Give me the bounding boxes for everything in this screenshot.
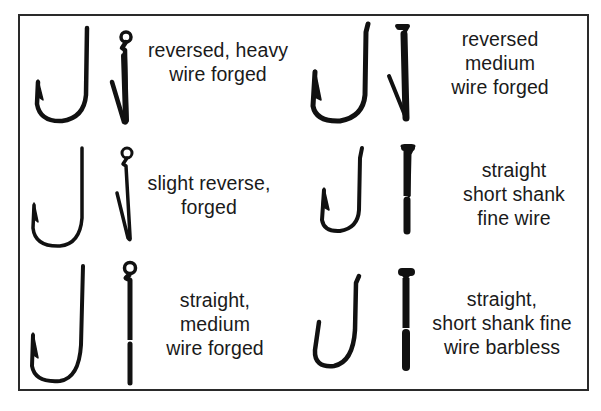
label-line: reversed <box>440 27 560 51</box>
hook-front-view-tapered-end-icon <box>389 24 408 118</box>
hook-side-view-icon <box>313 24 368 121</box>
label-line: wire forged <box>440 75 560 99</box>
hook-label-straight-medium-wire-forged: straight, medium wire forged <box>150 288 280 360</box>
label-line: straight, <box>150 288 280 312</box>
hook-front-view-ringed-eye-icon <box>125 263 136 384</box>
hook-front-view-tapered-end-icon <box>401 144 415 231</box>
hook-side-view-icon <box>33 148 82 246</box>
hook-label-straight-short-shank-fine-wire-barbless: straight, short shank fine wire barbless <box>418 287 586 359</box>
label-line: wire forged <box>150 336 280 360</box>
label-line: straight, <box>418 287 586 311</box>
label-line: fine wire <box>444 206 584 230</box>
label-line: short shank fine <box>418 311 586 335</box>
hook-side-view-icon <box>37 28 87 121</box>
hook-front-view-ringed-eye-icon <box>117 148 132 240</box>
label-line: straight <box>444 158 584 182</box>
hook-side-view-icon <box>322 148 362 231</box>
label-line: slight reverse, <box>138 171 280 195</box>
hook-front-view-ringed-eye-icon <box>112 32 131 123</box>
label-line: wire forged <box>138 62 298 86</box>
hook-label-slight-reverse-forged: slight reverse, forged <box>138 171 280 219</box>
hook-label-reversed-heavy-wire-forged: reversed, heavy wire forged <box>138 38 298 86</box>
label-line: medium <box>150 312 280 336</box>
hook-label-straight-short-shank-fine-wire: straight short shank fine wire <box>444 158 584 230</box>
hook-label-reversed-medium-wire-forged: reversed medium wire forged <box>440 27 560 99</box>
hook-side-view-icon <box>315 276 359 366</box>
label-line: wire barbless <box>418 335 586 359</box>
hook-side-view-icon <box>32 266 83 381</box>
label-line: short shank <box>444 182 584 206</box>
hook-front-view-tapered-end-icon <box>398 268 415 367</box>
label-line: forged <box>138 195 280 219</box>
label-line: reversed, heavy <box>138 38 298 62</box>
label-line: medium <box>440 51 560 75</box>
